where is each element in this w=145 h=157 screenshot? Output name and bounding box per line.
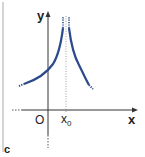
tick-label-x0: x0: [61, 112, 71, 128]
y-axis-label: y: [37, 8, 44, 23]
origin-label: O: [35, 113, 44, 127]
curve-left: [24, 28, 63, 84]
y-axis-arrow-icon: [46, 11, 51, 17]
panel-label: c: [4, 143, 10, 155]
x-axis-label: x: [128, 112, 135, 127]
curve-right: [69, 28, 89, 85]
graph-canvas: [0, 0, 145, 157]
